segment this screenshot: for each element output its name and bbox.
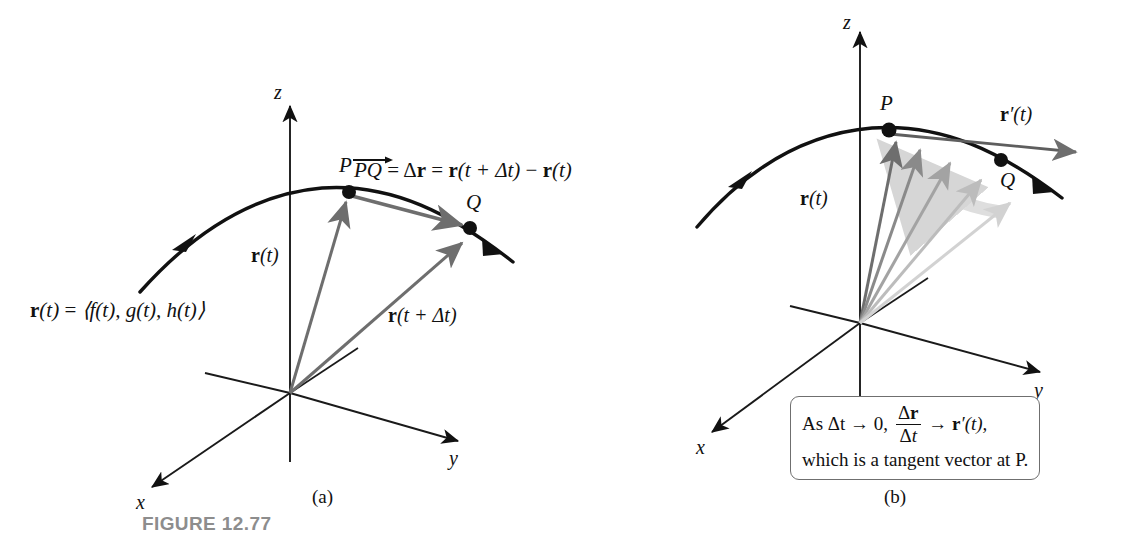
panel-b-y-axis-back: [790, 306, 860, 323]
panel-b-vector-4: [860, 180, 981, 323]
equation-term2-bold: r: [543, 158, 552, 182]
panel-a-vector-r-t-plus-dt-label: r(t + Δt): [388, 305, 457, 325]
panel-b-vector-r-t-label: r(t): [800, 188, 828, 208]
panel-b-r-t-arg: (t): [809, 187, 828, 209]
panel-a-point-q: [463, 221, 477, 235]
panel-b-r-t-bold: r: [800, 187, 809, 209]
panel-a-vector-r-t-label: r(t): [251, 245, 279, 265]
pq-vector-notation: PQ: [354, 158, 382, 181]
panel-b-point-q-label: Q: [1000, 170, 1015, 191]
panel-a-vector-r-t: [290, 202, 346, 393]
panel-a-r-t-arg: (t): [260, 244, 279, 266]
panel-a-point-q-label: Q: [466, 192, 481, 213]
definition-rhs: ⟨f(t), g(t), h(t)⟩: [82, 298, 205, 322]
panel-a-sublabel: (a): [312, 487, 333, 506]
panel-a-r-t-bold: r: [251, 244, 260, 266]
annotation-num-r: r: [910, 402, 918, 423]
panel-b-vector-5: [860, 203, 1010, 323]
definition-lhs-bold: r: [30, 298, 39, 322]
panel-b-point-p-label: P: [880, 93, 893, 114]
annotation-den-delta: Δ: [899, 425, 911, 446]
panel-b-z-axis-label: z: [843, 12, 851, 32]
panel-a-y-axis-back: [205, 373, 290, 393]
panel-a-x-axis: [152, 393, 290, 487]
equation-delta-1: Δ: [403, 158, 417, 182]
annotation-arrow: →: [928, 413, 947, 434]
annotation-fraction-denominator: Δt: [896, 425, 921, 446]
panel-b-point-q: [994, 153, 1008, 167]
panel-a-point-p-label: P: [339, 155, 352, 176]
panel-a-curve-direction-arrow-2: [482, 238, 504, 256]
panel-b-y-axis: [860, 323, 1040, 372]
annotation-num-delta: Δ: [898, 402, 910, 423]
panel-b-annotation-box: As Δt → 0, Δr Δt → r′(t), which is a tan…: [790, 396, 1040, 480]
equation-term2-arg: (t): [552, 158, 572, 182]
annotation-fraction-numerator: Δr: [896, 403, 921, 425]
equation-delta-r-bold: r: [417, 158, 426, 182]
panel-b-r-prime-arg: ′(t): [1009, 103, 1032, 125]
panel-b-point-p: [882, 123, 897, 138]
panel-a-curve: [140, 187, 513, 292]
panel-a-equation: PQ = Δr = r(t + Δt) − r(t): [354, 158, 572, 181]
equation-term1-arg: (t + Δt): [458, 158, 521, 182]
panel-a-r-tdt-bold: r: [388, 304, 397, 326]
pq-overarrow-icon: [353, 155, 393, 164]
figure-12-77: z y x P Q r(t) r(t + Δt) PQ = Δr = r(t +…: [0, 0, 1137, 560]
annotation-line1-post: ′(t),: [960, 413, 987, 434]
panel-b-curve-direction-arrow: [728, 171, 752, 189]
panel-a-point-p: [342, 185, 356, 199]
panel-b-x-axis-label: x: [696, 437, 705, 457]
panel-b-vector-3: [860, 163, 950, 323]
equation-term1-bold: r: [448, 158, 457, 182]
panel-a-z-axis-label: z: [274, 82, 282, 102]
panel-a-r-tdt-arg: (t + Δt): [397, 304, 457, 326]
panel-a-y-axis: [290, 393, 458, 441]
equation-equals-2: =: [431, 158, 443, 182]
definition-equals: =: [64, 298, 76, 322]
definition-lhs-arg: (t): [39, 298, 59, 322]
panel-b-sublabel: (b): [884, 487, 906, 506]
annotation-line-1: As Δt → 0, Δr Δt → r′(t),: [802, 404, 1028, 449]
panel-b-tangent-vector-label: r′(t): [1000, 104, 1032, 124]
panel-a-x-axis-label: x: [136, 492, 145, 512]
panel-a-y-axis-label: y: [449, 448, 458, 468]
annotation-line-2: which is a tangent vector at P.: [802, 449, 1028, 471]
panel-b-curve-direction-arrow-2: [1032, 175, 1054, 194]
equation-minus: −: [526, 158, 538, 182]
panel-b-r-prime-bold: r: [1000, 103, 1009, 125]
annotation-den-t: t: [912, 425, 917, 446]
figure-caption: FIGURE 12.77: [142, 513, 271, 535]
annotation-fraction: Δr Δt: [896, 403, 921, 446]
annotation-line1-pre: As Δt → 0,: [802, 413, 888, 434]
panel-a-definition: r(t) = ⟨f(t), g(t), h(t)⟩: [30, 300, 205, 321]
